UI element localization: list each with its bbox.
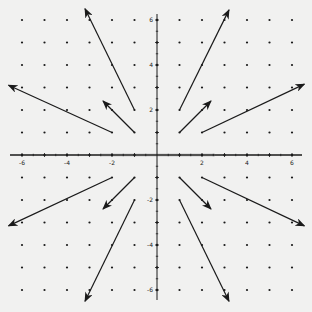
x-tick-label: 2 — [200, 159, 204, 166]
x-tick-label: 4 — [245, 159, 249, 166]
vector-arrow — [180, 178, 212, 210]
grid-dot — [246, 266, 248, 268]
axis-dot — [156, 19, 158, 21]
grid-dot — [111, 266, 113, 268]
vector-field-plot: -6-4-2246642-2-4-6 — [0, 0, 312, 312]
grid-dot — [66, 64, 68, 66]
grid-dot — [133, 86, 135, 88]
y-tick-label: -6 — [147, 286, 153, 293]
grid-dot — [66, 244, 68, 246]
grid-dot — [43, 19, 45, 21]
grid-dot — [66, 266, 68, 268]
axis-dot — [246, 154, 248, 156]
grid-dot — [111, 41, 113, 43]
grid-dot — [21, 131, 23, 133]
axis-dot — [156, 41, 158, 43]
grid-dot — [43, 64, 45, 66]
grid-dot — [223, 64, 225, 66]
axis-dot — [156, 109, 158, 111]
grid-dot — [66, 221, 68, 223]
grid-dot — [88, 131, 90, 133]
grid-dot — [43, 41, 45, 43]
grid-dot — [21, 86, 23, 88]
grid-dot — [223, 131, 225, 133]
grid-dot — [268, 19, 270, 21]
x-tick-label: -2 — [109, 159, 115, 166]
vector-arrow — [9, 85, 113, 132]
grid-dot — [201, 19, 203, 21]
vector-arrow — [180, 101, 212, 133]
grid-dot — [133, 41, 135, 43]
vector-arrow — [85, 200, 135, 301]
axis-dot — [156, 289, 158, 291]
grid-dot — [21, 244, 23, 246]
grid-dot — [291, 86, 293, 88]
grid-dot — [291, 266, 293, 268]
axis-dot — [178, 154, 180, 156]
grid-dot — [43, 109, 45, 111]
grid-dot — [43, 244, 45, 246]
grid-dot — [43, 289, 45, 291]
grid-dot — [178, 289, 180, 291]
grid-dot — [111, 86, 113, 88]
grid-dot — [66, 86, 68, 88]
grid-dot — [88, 176, 90, 178]
grid-dot — [111, 19, 113, 21]
grid-dot — [223, 41, 225, 43]
grid-dot — [133, 266, 135, 268]
grid-dot — [178, 266, 180, 268]
grid-dot — [88, 244, 90, 246]
grid-dot — [246, 176, 248, 178]
grid-dot — [133, 64, 135, 66]
x-tick-label: -6 — [19, 159, 25, 166]
grid-dot — [223, 109, 225, 111]
grid-dot — [268, 64, 270, 66]
axis-dot — [156, 199, 158, 201]
grid-dot — [88, 86, 90, 88]
grid-dot — [21, 64, 23, 66]
grid-dot — [88, 221, 90, 223]
grid-dot — [268, 266, 270, 268]
grid-dot — [246, 19, 248, 21]
axis-dot — [156, 64, 158, 66]
axis-dot — [156, 266, 158, 268]
grid-dot — [133, 244, 135, 246]
grid-dot — [21, 199, 23, 201]
vector-arrow — [9, 178, 113, 226]
y-tick-label: 6 — [149, 16, 153, 23]
grid-dot — [268, 109, 270, 111]
grid-dot — [268, 176, 270, 178]
grid-dot — [291, 199, 293, 201]
grid-dot — [88, 64, 90, 66]
grid-dot — [43, 221, 45, 223]
grid-dot — [268, 199, 270, 201]
x-tick-label: 6 — [290, 159, 294, 166]
grid-dot — [21, 41, 23, 43]
grid-dot — [201, 221, 203, 223]
grid-dot — [268, 244, 270, 246]
axis-dot — [133, 154, 135, 156]
axis-dot — [156, 131, 158, 133]
grid-dot — [43, 199, 45, 201]
grid-dot — [223, 176, 225, 178]
grid-dot — [178, 19, 180, 21]
grid-dot — [291, 221, 293, 223]
grid-dot — [178, 221, 180, 223]
axis-dot — [291, 154, 293, 156]
grid-dot — [21, 289, 23, 291]
y-tick-label: -4 — [147, 241, 153, 248]
grid-dot — [201, 289, 203, 291]
grid-dot — [21, 19, 23, 21]
grid-dot — [268, 221, 270, 223]
grid-dot — [246, 244, 248, 246]
axes — [10, 14, 302, 300]
grid-dot — [246, 86, 248, 88]
grid-dot — [66, 176, 68, 178]
axis-dot — [156, 176, 158, 178]
grid-dot — [291, 176, 293, 178]
grid-dot — [133, 19, 135, 21]
axis-dot — [156, 86, 158, 88]
axis-dot — [43, 154, 45, 156]
grid-dot — [268, 131, 270, 133]
axis-dot — [156, 221, 158, 223]
